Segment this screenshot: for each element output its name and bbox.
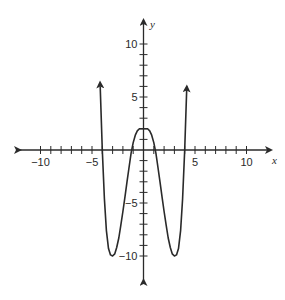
x-axis-tick-labels: −10−5510	[31, 156, 252, 168]
x-tick-label: 10	[240, 156, 252, 168]
x-tick-label: 5	[192, 156, 198, 168]
x-tick-label: −5	[86, 156, 99, 168]
x-tick-label: −10	[31, 156, 50, 168]
y-tick-label: −10	[119, 250, 138, 262]
y-tick-label: −5	[125, 197, 138, 209]
axes: −10−5510 105−5−10 x y	[20, 18, 277, 280]
x-axis-label: x	[271, 154, 277, 166]
y-axis-label: y	[149, 18, 155, 30]
function-graph: −10−5510 105−5−10 x y	[0, 0, 285, 300]
y-tick-label: 10	[125, 38, 137, 50]
y-tick-label: 5	[131, 91, 137, 103]
